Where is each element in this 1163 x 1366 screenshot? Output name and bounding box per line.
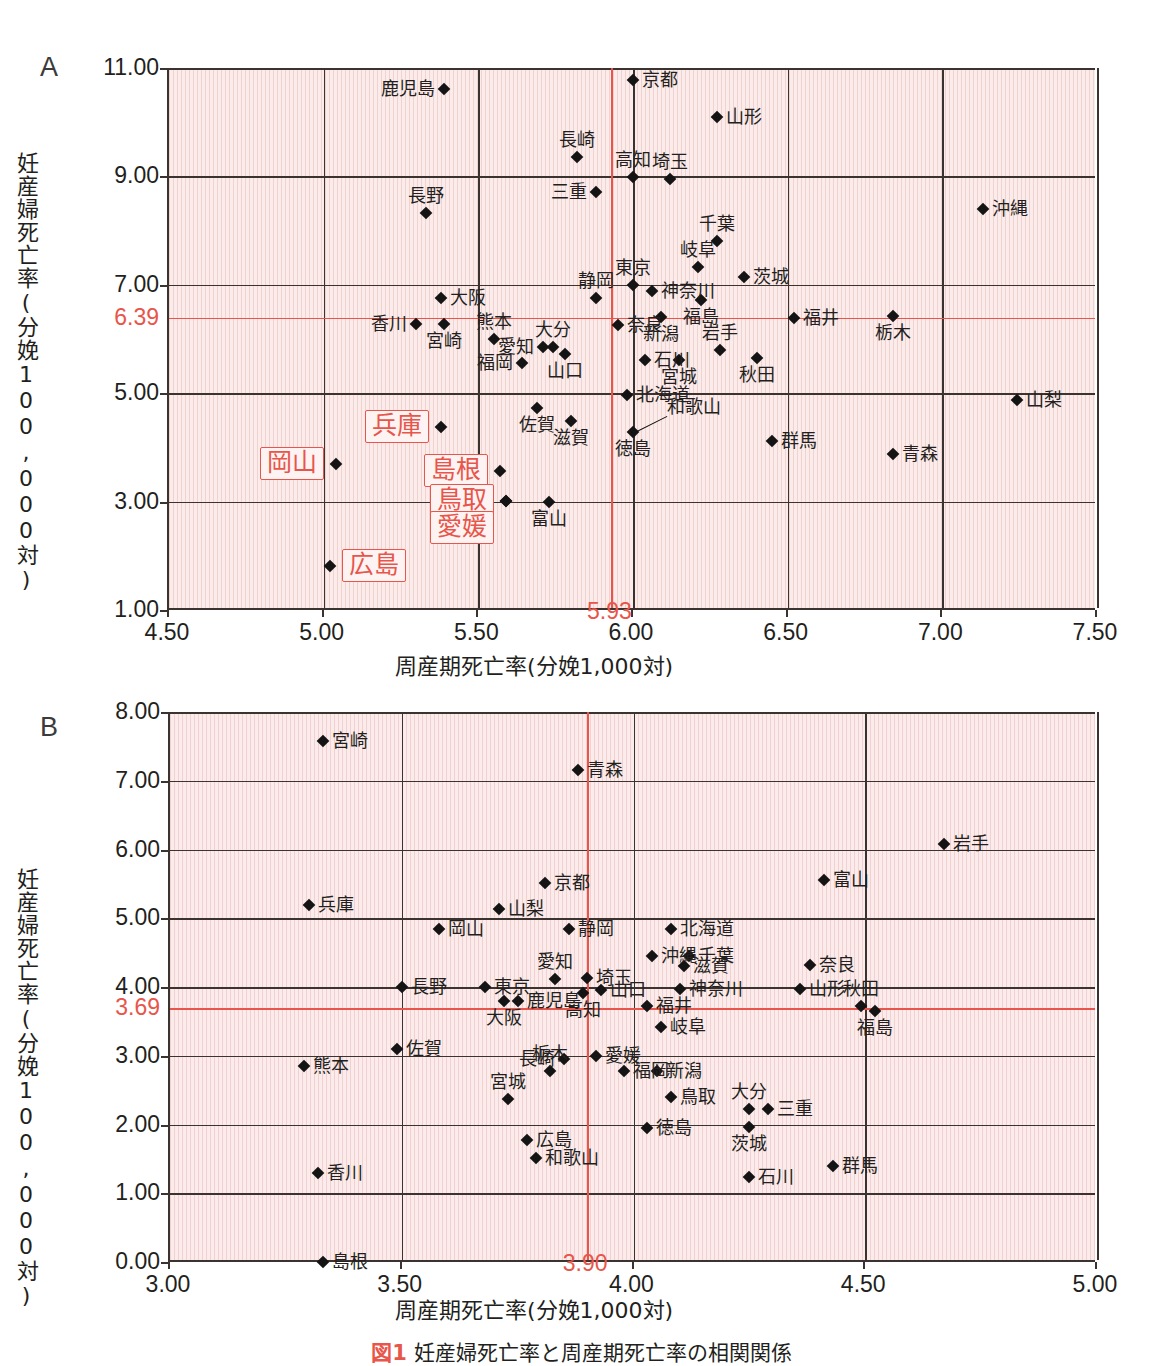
reference-line-vertical [587,712,588,1260]
y-axis-tick-mark [160,610,167,612]
gridline-vertical [1097,68,1099,608]
y-axis-tick-mark [160,68,167,70]
data-point-marker [500,494,513,507]
data-point-label: 山口 [547,362,583,380]
data-point-label: 福岡 [633,1062,669,1080]
data-point-label: 福岡 [477,354,513,372]
data-point-label: 山梨 [508,900,544,918]
data-point-label: 京都 [642,71,678,89]
gridline-horizontal [169,502,1095,504]
data-point-marker [646,950,659,963]
data-point-label: 新潟 [666,1062,702,1080]
data-point-marker [502,1093,515,1106]
data-point-label: 岩手 [702,324,738,342]
data-point-label: 徳島 [656,1119,692,1137]
data-point-label: 神奈川 [689,980,743,998]
data-point-label: 徳島 [615,440,651,458]
data-point-marker [645,285,658,298]
data-point-label: 福井 [656,997,692,1015]
data-point-label: 広島 [342,549,406,582]
data-point-marker [419,207,432,220]
data-point-marker [627,278,640,291]
data-point-label: 沖縄 [992,200,1028,218]
data-point-marker [323,559,336,572]
gridline-horizontal [170,918,1095,920]
data-point-label: 秋田 [739,366,775,384]
data-point-label: 三重 [777,1100,813,1118]
data-point-label: 石川 [654,351,690,369]
data-point-label: 滋賀 [553,429,589,447]
x-axis-tick-label: 7.00 [908,619,972,646]
data-point-label: 滋賀 [693,957,729,975]
data-point-label: 宮城 [490,1073,526,1091]
data-point-label: 佐賀 [519,416,555,434]
data-point-label: 岐阜 [680,241,716,259]
data-point-label: 茨城 [753,268,789,286]
x-axis-tick-mark [168,1262,170,1269]
reference-line-horizontal [170,1008,1095,1009]
data-point-label: 岩手 [953,835,989,853]
data-point-label: 栃木 [532,1045,568,1063]
data-point-label: 富山 [531,510,567,528]
data-point-marker [787,311,800,324]
data-point-marker [435,420,448,433]
y-axis-tick-mark [161,1125,168,1127]
data-point-label: 愛知 [537,953,573,971]
data-point-label: 京都 [554,874,590,892]
data-point-marker [548,972,561,985]
data-point-marker [317,1256,330,1269]
data-point-label: 静岡 [578,272,614,290]
data-point-marker [537,341,550,354]
y-axis-tick-label: 3.00 [70,1042,160,1069]
data-point-marker [938,838,951,851]
y-axis-tick-mark [161,712,168,714]
x-axis-tick-label: 6.50 [754,619,818,646]
data-point-label: 宮崎 [426,332,462,350]
data-point-label: 島根 [424,454,488,487]
data-point-label: 石川 [758,1168,794,1186]
data-point-label: 佐賀 [406,1040,442,1058]
y-axis-tick-label: 7.00 [69,271,159,298]
data-point-label: 岡山 [260,447,324,480]
data-point-label: 高知 [615,151,651,169]
x-axis-tick-label: 3.00 [136,1271,200,1298]
data-point-label: 秋田 [843,980,879,998]
data-point-marker [395,981,408,994]
data-point-marker [590,1049,603,1062]
data-point-label: 岐阜 [670,1018,706,1036]
data-point-label: 大分 [535,321,571,339]
data-point-label: 群馬 [781,432,817,450]
y-axis-tick-mark [161,850,168,852]
x-axis-tick-mark [786,610,788,617]
data-point-label: 大阪 [486,1009,522,1027]
data-point-marker [750,352,763,365]
data-point-marker [571,151,584,164]
y-axis-tick-mark [160,285,167,287]
data-point-label: 兵庫 [318,896,354,914]
y-axis-tick-mark [161,987,168,989]
figure-caption-tag: 図1 [371,1341,407,1365]
y-axis-tick-mark [160,393,167,395]
x-axis-tick-mark [476,610,478,617]
x-axis-tick-mark [322,610,324,617]
data-point-marker [432,923,445,936]
data-point-label: 奈良 [627,316,663,334]
y-axis-tick-label: 2.00 [70,1111,160,1138]
x-axis-reference-label: 5.93 [575,598,643,625]
data-point-marker [1010,394,1023,407]
data-point-marker [738,270,751,283]
y-axis-tick-mark [161,918,168,920]
x-axis-tick-label: 3.50 [368,1271,432,1298]
data-point-marker [620,389,633,402]
data-point-marker [673,983,686,996]
x-axis-tick-label: 7.50 [1063,619,1127,646]
gridline-horizontal [170,712,1095,714]
x-axis-tick-mark [167,610,169,617]
y-axis-tick-mark [160,502,167,504]
data-point-label: 神奈川 [661,282,715,300]
data-point-label: 愛媛 [430,511,494,544]
data-point-marker [317,735,330,748]
panel-a-letter: A [40,52,58,83]
data-point-label: 青森 [902,445,938,463]
data-point-label: 長崎 [559,131,595,149]
